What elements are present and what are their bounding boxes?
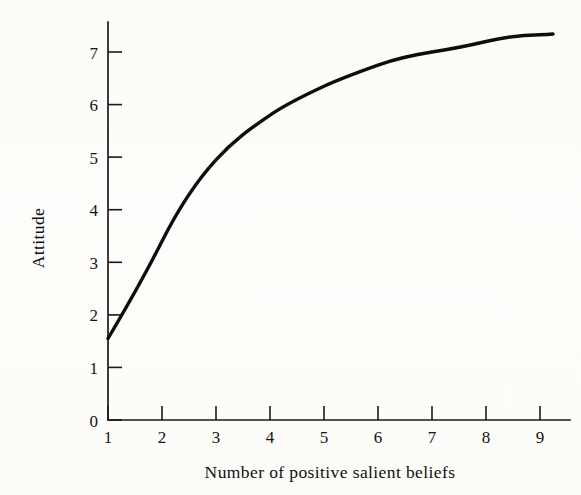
x-tick-label: 7 [428, 428, 437, 447]
x-axis-title: Number of positive salient beliefs [205, 462, 456, 482]
y-tick-label: 7 [90, 44, 99, 63]
y-tick-marks [108, 52, 122, 420]
x-tick-label: 9 [536, 428, 545, 447]
x-tick-label: 5 [320, 428, 329, 447]
attitude-curve [108, 34, 553, 339]
x-tick-label: 4 [266, 428, 275, 447]
y-tick-label: 3 [90, 254, 99, 273]
x-tick-label: 8 [482, 428, 491, 447]
y-tick-label: 4 [90, 201, 99, 220]
y-tick-label: 1 [90, 359, 99, 378]
x-tick-label: 1 [104, 428, 113, 447]
y-axis-title: Attitude [28, 208, 48, 269]
y-tick-label: 6 [90, 96, 99, 115]
x-tick-marks [108, 406, 540, 420]
y-tick-labels: 0 1 2 3 4 5 6 7 [90, 44, 99, 431]
y-tick-label: 2 [90, 306, 99, 325]
chart-plot-area: 0 1 2 3 4 5 6 7 1 2 3 4 5 6 [0, 0, 581, 495]
x-tick-label: 6 [374, 428, 383, 447]
y-tick-label: 0 [90, 412, 99, 431]
x-tick-label: 2 [158, 428, 167, 447]
y-tick-label: 5 [90, 149, 99, 168]
x-tick-labels: 1 2 3 4 5 6 7 8 9 [104, 428, 545, 447]
x-tick-label: 3 [212, 428, 221, 447]
chart-figure: 0 1 2 3 4 5 6 7 1 2 3 4 5 6 [0, 0, 581, 495]
